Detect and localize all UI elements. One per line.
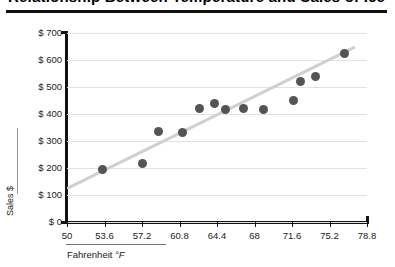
chart-title: Relationship Between Temperature and Sal…: [8, 0, 387, 5]
data-point: [239, 104, 248, 113]
gridline-horizontal: [67, 33, 367, 34]
data-point: [195, 104, 204, 113]
x-axis-tick: [67, 222, 68, 227]
gridline-horizontal: [67, 195, 367, 196]
x-axis-tick: [330, 222, 331, 227]
data-point: [340, 49, 349, 58]
data-point: [138, 159, 147, 168]
y-axis-tick-label: $ 200: [18, 162, 62, 173]
y-axis-tick-labels: $ 0$ 100$ 200$ 300$ 400$ 500$ 600$ 700: [14, 0, 62, 267]
x-axis-tick: [217, 222, 218, 227]
y-axis-title: Sales $: [5, 175, 15, 227]
data-point: [296, 77, 305, 86]
data-point: [289, 96, 298, 105]
y-axis-tick-label: $ 400: [18, 108, 62, 119]
y-axis-tick-label: $ 500: [18, 81, 62, 92]
x-axis-tick: [292, 222, 293, 227]
x-axis-title: Fahrenheit °F: [67, 249, 125, 260]
x-axis-title-unit: °F: [115, 249, 125, 260]
x-axis-tick: [255, 222, 256, 227]
x-axis-tick-label: 78.8: [345, 230, 389, 241]
gridline-horizontal: [67, 168, 367, 169]
y-axis-tick-label: $ 700: [18, 27, 62, 38]
data-point: [98, 165, 107, 174]
y-axis-title-rule: [17, 128, 18, 194]
x-axis-title-rule: [66, 244, 166, 245]
x-axis-tick: [142, 222, 143, 227]
x-axis-tick: [105, 222, 106, 227]
chart-container: Relationship Between Temperature and Sal…: [0, 0, 395, 267]
gridline-horizontal: [67, 87, 367, 88]
y-axis-tick-label: $ 0: [18, 216, 62, 227]
x-axis-tick: [367, 222, 368, 227]
y-axis-tick-label: $ 300: [18, 135, 62, 146]
x-axis-title-text: Fahrenheit: [67, 249, 112, 260]
y-axis-tick-label: $ 100: [18, 189, 62, 200]
gridline-horizontal: [67, 141, 367, 142]
y-axis-tick-label: $ 600: [18, 54, 62, 65]
x-axis-tick: [180, 222, 181, 227]
title-divider: [6, 10, 387, 13]
